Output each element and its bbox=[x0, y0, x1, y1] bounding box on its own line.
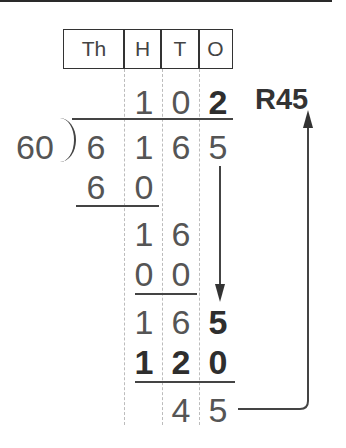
bring-down-arrow-icon bbox=[215, 166, 225, 302]
arrows-overlay bbox=[0, 0, 346, 448]
remainder-arrow-icon bbox=[238, 110, 313, 409]
